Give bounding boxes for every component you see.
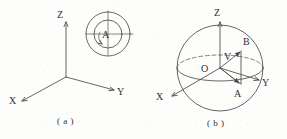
figure-root: Z X Y A ( a ) [0,0,287,139]
chord-O-to-A-base [220,68,241,84]
panel-b-x-axis-label: X [156,91,164,102]
panel-a-x-axis: X [9,77,66,106]
panel-b: Z X Y O V B A ( b ) [156,7,269,128]
panel-b-caption: ( b ) [207,118,225,128]
panel-a-x-axis-label: X [9,95,17,106]
panel-b-z-axis: Z [214,7,220,68]
panel-b-z-axis-label: Z [214,7,220,18]
panel-a-z-axis-label: Z [57,9,63,20]
figure-svg: Z X Y A ( a ) [0,0,287,139]
panel-a-y-axis: Y [66,77,124,97]
panel-b-label-O: O [201,63,208,74]
panel-a: Z X Y A ( a ) [9,9,133,126]
panel-a-concentric-circles: A [86,11,133,56]
panel-b-y-axis-label: Y [262,77,269,88]
panel-a-caption: ( a ) [57,116,74,126]
panel-b-label-B: B [243,36,250,47]
panel-a-z-axis: Z [57,9,66,77]
panel-b-label-V: V [224,51,232,62]
panel-a-y-axis-label: Y [117,86,124,97]
equator-front [177,68,263,81]
panel-a-point-label-A: A [102,29,110,40]
panel-b-label-A: A [234,88,242,99]
